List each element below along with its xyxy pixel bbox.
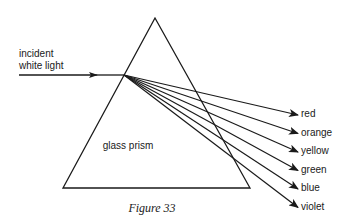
incident-label-line1: incident xyxy=(19,48,54,59)
ray-blue xyxy=(124,75,298,189)
figure-caption: Figure 33 xyxy=(127,201,175,215)
color-labels: redorangeyellowgreenblueviolet xyxy=(301,108,333,212)
prism-diagram: incident white light glass prism redoran… xyxy=(0,0,361,221)
glass-prism xyxy=(63,18,250,188)
incident-label-line2: white light xyxy=(18,60,64,71)
label-blue: blue xyxy=(301,182,320,193)
label-red: red xyxy=(301,108,315,119)
label-yellow: yellow xyxy=(301,145,330,156)
ray-green xyxy=(124,75,298,171)
ray-orange xyxy=(124,75,298,134)
prism-label: glass prism xyxy=(103,140,154,151)
label-violet: violet xyxy=(301,201,325,212)
label-green: green xyxy=(301,164,327,175)
label-orange: orange xyxy=(301,127,333,138)
